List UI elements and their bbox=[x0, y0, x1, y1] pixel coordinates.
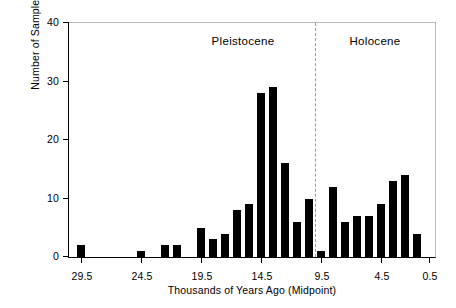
x-axis-title: Thousands of Years Ago (Midpoint) bbox=[68, 284, 436, 296]
histogram-bar bbox=[329, 187, 336, 257]
x-tick-label: 19.5 bbox=[191, 270, 212, 282]
histogram-bar bbox=[137, 251, 144, 257]
y-tick-label: 30 bbox=[47, 75, 59, 87]
histogram-bar bbox=[341, 222, 348, 257]
x-tick: 24.5 bbox=[141, 257, 142, 263]
histogram-bar bbox=[317, 251, 324, 257]
histogram-bar bbox=[173, 245, 180, 257]
x-tick-label: 0.5 bbox=[422, 270, 437, 282]
histogram-bar bbox=[389, 181, 396, 257]
x-tick: 0.5 bbox=[429, 257, 430, 263]
x-tick: 9.5 bbox=[321, 257, 322, 263]
histogram-bar bbox=[413, 234, 420, 257]
y-tick: 30 bbox=[63, 81, 69, 82]
histogram-figure: Number of Samples 010203040 29.524.519.5… bbox=[0, 0, 456, 308]
histogram-bar bbox=[293, 222, 300, 257]
y-tick: 10 bbox=[63, 198, 69, 199]
histogram-bar bbox=[209, 239, 216, 257]
y-tick: 20 bbox=[63, 139, 69, 140]
x-tick: 4.5 bbox=[381, 257, 382, 263]
histogram-bar bbox=[401, 175, 408, 257]
epoch-divider-line bbox=[315, 23, 316, 257]
x-tick: 29.5 bbox=[81, 257, 82, 263]
histogram-bar bbox=[305, 199, 312, 258]
histogram-bar bbox=[197, 228, 204, 257]
histogram-bar bbox=[365, 216, 372, 257]
epoch-label-pleistocene: Pleistocene bbox=[212, 35, 275, 47]
x-tick-label: 14.5 bbox=[251, 270, 272, 282]
y-tick-label: 40 bbox=[47, 16, 59, 28]
plot-area: 010203040 29.524.519.514.59.54.50.5 Plei… bbox=[68, 22, 436, 258]
histogram-bar bbox=[377, 204, 384, 257]
y-tick-label: 10 bbox=[47, 192, 59, 204]
x-tick-label: 4.5 bbox=[374, 270, 389, 282]
histogram-bar bbox=[221, 234, 228, 257]
y-tick-label: 0 bbox=[53, 250, 59, 262]
y-tick: 40 bbox=[63, 22, 69, 23]
x-tick-label: 24.5 bbox=[131, 270, 152, 282]
histogram-bar bbox=[269, 87, 276, 257]
histogram-bar bbox=[161, 245, 168, 257]
histogram-bar bbox=[281, 163, 288, 257]
x-tick-label: 29.5 bbox=[71, 270, 92, 282]
histogram-bar bbox=[257, 93, 264, 257]
epoch-label-holocene: Holocene bbox=[350, 35, 401, 47]
histogram-bar bbox=[233, 210, 240, 257]
histogram-bar bbox=[353, 216, 360, 257]
histogram-bar bbox=[77, 245, 84, 257]
y-tick-label: 20 bbox=[47, 133, 59, 145]
x-tick: 19.5 bbox=[201, 257, 202, 263]
y-tick: 0 bbox=[63, 256, 69, 257]
x-tick: 14.5 bbox=[261, 257, 262, 263]
histogram-bar bbox=[245, 204, 252, 257]
x-tick-label: 9.5 bbox=[314, 270, 329, 282]
y-axis-title: Number of Samples bbox=[23, 0, 47, 166]
